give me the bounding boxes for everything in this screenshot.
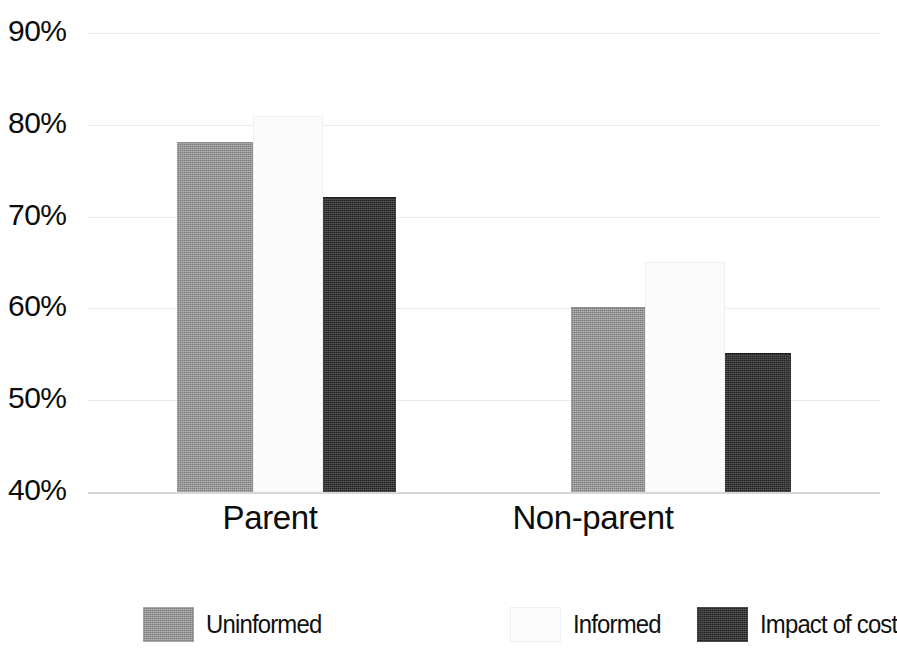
gridline-80 [88,125,880,126]
legend-swatch-informed-icon [510,607,561,642]
y-tick-label-50: 50% [8,383,67,413]
gridline-90 [88,33,880,34]
y-tick-label-40: 40% [8,475,67,505]
legend-label-impact: Impact of cost [760,609,897,639]
category-label-parent: Parent [120,500,420,536]
plot-area: 90%80%70%60%50%40% ParentNon-parent [0,0,887,520]
legend-swatch-uninformed-icon [143,607,194,642]
y-tick-label-80: 80% [8,108,67,138]
bar-informed-parent [253,116,323,492]
x-axis-baseline [88,492,880,494]
bar-uninformed-parent [177,142,253,492]
legend-label-uninformed: Uninformed [206,609,321,639]
bar-impact-non-parent [725,353,791,492]
legend-label-informed: Informed [573,609,661,639]
y-tick-label-60: 60% [8,291,67,321]
category-label-non-parent: Non-parent [443,500,743,536]
chart-legend: UninformedInformedImpact of cost [0,598,887,648]
legend-swatch-impact-icon [697,607,748,642]
bar-impact-parent [323,197,396,492]
y-tick-label-70: 70% [8,200,67,230]
bar-informed-non-parent [645,262,725,492]
bar-uninformed-non-parent [571,307,645,492]
y-tick-label-90: 90% [8,16,67,46]
caption-partial-text [18,656,448,665]
